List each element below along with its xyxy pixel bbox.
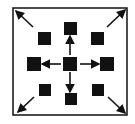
- expand-diagram: [0, 0, 135, 124]
- grid-squares: [27, 22, 114, 105]
- square-bottom-left: [39, 84, 51, 96]
- arrow-top-right-icon: [107, 10, 125, 27]
- square-top-left: [38, 32, 51, 45]
- arrow-bottom-right-icon: [108, 97, 125, 113]
- square-top-right: [91, 32, 104, 45]
- square-top-center: [64, 22, 77, 35]
- square-bottom-center: [65, 93, 77, 105]
- square-middle-left: [27, 57, 41, 71]
- square-center: [63, 57, 77, 71]
- square-middle-right: [100, 57, 114, 71]
- arrow-bottom-left-icon: [18, 97, 34, 112]
- arrow-top-left-icon: [16, 11, 33, 27]
- expand-grid-icon: [0, 0, 135, 124]
- square-bottom-right: [92, 84, 104, 96]
